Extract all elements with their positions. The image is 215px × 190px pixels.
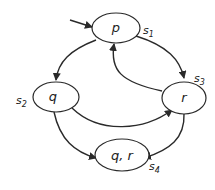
state-name-s1: s1 [143, 24, 154, 39]
state-name-s3: s3 [194, 72, 205, 87]
state-name-s4: s4 [149, 160, 160, 175]
state-s4: q, r [95, 139, 149, 171]
state-name-s2: s2 [16, 94, 27, 109]
edge-s2-s3 [72, 108, 172, 127]
state-label: q [49, 89, 57, 104]
state-label: q, r [111, 148, 135, 163]
kripke-diagram: p q r q, r s1 s2 s3 s4 [0, 0, 215, 190]
state-s2: q [33, 82, 79, 112]
edge-s1-s2 [56, 40, 96, 80]
state-label: p [111, 20, 120, 35]
edge-s3-s1 [113, 44, 162, 91]
initial-arrow [70, 20, 92, 27]
state-s1: p [92, 13, 140, 43]
edge-s1-s3 [136, 36, 184, 78]
edge-s3-s4 [144, 114, 184, 158]
edge-s2-s4 [54, 112, 96, 158]
